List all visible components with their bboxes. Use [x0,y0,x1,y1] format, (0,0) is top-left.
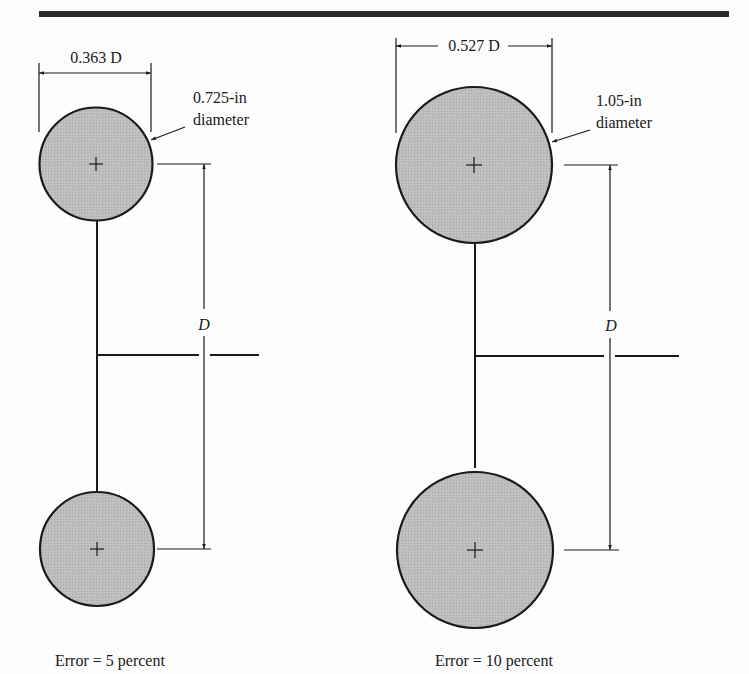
callout-text-right-1: 1.05-in [596,92,642,109]
top-rule [39,11,729,17]
caption-left: Error = 5 percent [55,652,165,670]
callout-text-left-2: diameter [193,111,250,128]
spacing-dimension-label-right: D [604,317,617,334]
spacing-dimension-left [157,164,211,549]
callout-text-right-2: diameter [596,114,653,131]
callout-leader-right [552,130,590,142]
width-dimension-label-left: 0.363 D [70,49,122,66]
width-dimension-label-right: 0.527 D [448,37,500,54]
caption-right: Error = 10 percent [435,652,553,670]
spacing-dimension-right [564,165,619,550]
callout-leader-left [151,127,185,140]
figure-left: 0.363 D 0.725-in diameter D Err [39,49,259,670]
figure-right: 0.527 D 1.05-in diameter D Erro [396,37,679,670]
dumbbell-diagram: 0.363 D 0.725-in diameter D Err [0,0,749,674]
spacing-dimension-label-left: D [197,316,210,333]
callout-text-left-1: 0.725-in [193,89,247,106]
